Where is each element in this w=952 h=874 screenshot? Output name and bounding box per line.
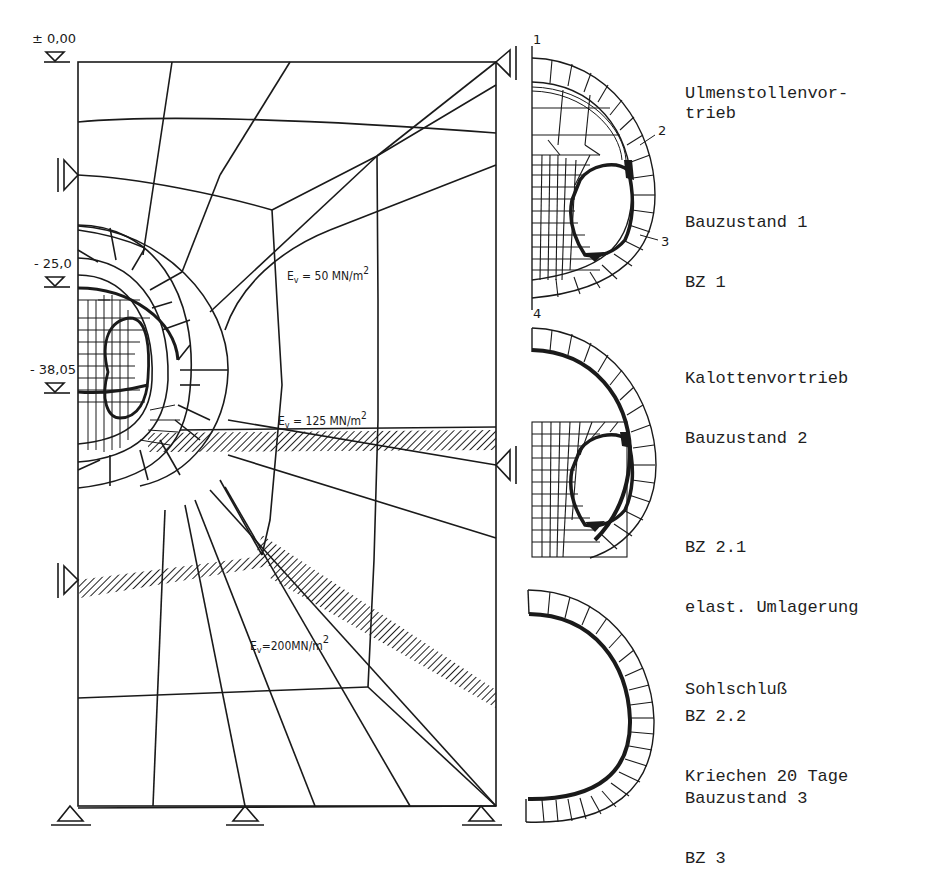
roller-support-icon: [58, 563, 78, 598]
pin-support-icon: [51, 806, 91, 825]
stage-2-section: [532, 328, 656, 558]
roller-support-icon: [58, 158, 78, 192]
stage-2-1-desc: elast. Umlagerung: [685, 598, 858, 618]
material-label-200: Ev=200MN/m2: [250, 633, 329, 655]
side-drift: [105, 318, 149, 418]
fem-tunnel-diagram: ± 0,00 - 25,0 - 38,05 Ev = 50 MN/m2 Ev =…: [0, 0, 952, 874]
stage-1-state: Bauzustand 1: [685, 213, 848, 233]
stage-3-caption: Sohlschluß Bauzustand 3 BZ 3: [685, 640, 807, 874]
pin-support-icon: [226, 806, 264, 825]
pin-support-icon: [462, 806, 502, 825]
section-marker-2: 2: [658, 123, 666, 138]
elevation-label-0: ± 0,00: [32, 31, 76, 46]
stage-3-state: Bauzustand 3: [685, 789, 807, 809]
stage-2-title: Kalottenvortrieb: [685, 369, 858, 389]
roller-support-icon: [496, 446, 516, 484]
elevation-marker-icon: [44, 52, 70, 62]
hatched-layer-lower: [78, 535, 496, 708]
side-drift-stage-1: [571, 165, 633, 256]
stage-1-title: Ulmenstollenvor- trieb: [685, 84, 848, 124]
material-label-125: Ev = 125 MN/m2: [278, 410, 367, 430]
main-fem-mesh: [78, 62, 496, 808]
stage-3-section: [526, 590, 654, 822]
section-marker-4: 4: [533, 306, 541, 321]
elevation-marker-icon: [44, 277, 70, 287]
stage-3-code: BZ 3: [685, 849, 807, 869]
stage-1-section: [532, 46, 658, 310]
elevation-label-1: - 25,0: [34, 256, 72, 271]
elevation-label-2: - 38,05: [30, 362, 76, 377]
section-marker-1: 1: [533, 32, 541, 47]
roller-support-icon: [496, 46, 516, 80]
stage-1-caption: Ulmenstollenvor- trieb Bauzustand 1 BZ 1: [685, 44, 848, 313]
stage-1-code: BZ 1: [685, 273, 848, 293]
stage-2-1-code: BZ 2.1: [685, 538, 858, 558]
side-drift-stage-2: [571, 435, 633, 526]
section-marker-3: 3: [661, 234, 669, 249]
elevation-marker-icon: [44, 383, 70, 393]
stage-2-state: Bauzustand 2: [685, 429, 858, 449]
material-label-50: Ev = 50 MN/m2: [287, 265, 369, 285]
stage-3-title: Sohlschluß: [685, 680, 807, 700]
